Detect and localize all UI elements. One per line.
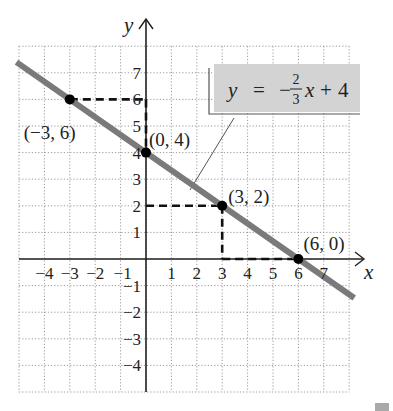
eq-frac-den: 3 bbox=[293, 92, 300, 107]
x-tick-label: 2 bbox=[193, 264, 202, 283]
corner-marker bbox=[375, 403, 389, 411]
x-tick-label: −4 bbox=[35, 264, 54, 283]
x-tick-label: 4 bbox=[243, 264, 252, 283]
chart-svg: y = − 2 3 x + 4 (−3, 6)(0, 4)(3, 2)(6, 0… bbox=[0, 0, 393, 411]
y-tick-label: −3 bbox=[123, 330, 141, 349]
data-point bbox=[217, 201, 227, 211]
y-axis-label: y bbox=[122, 13, 134, 37]
x-tick-label: 1 bbox=[167, 264, 176, 283]
eq-const: 4 bbox=[338, 78, 349, 102]
y-tick-label: −4 bbox=[123, 356, 142, 375]
x-tick-label: 5 bbox=[269, 264, 278, 283]
eq-minus: − bbox=[279, 78, 291, 102]
eq-y: y bbox=[226, 78, 238, 102]
y-tick-label: 6 bbox=[133, 90, 142, 109]
eq-equals: = bbox=[253, 78, 265, 102]
y-tick-label: 2 bbox=[133, 197, 142, 216]
y-tick-label: 3 bbox=[133, 170, 142, 189]
y-tick-label: 5 bbox=[133, 117, 142, 136]
eq-x: x bbox=[304, 78, 315, 102]
x-tick-label: −2 bbox=[86, 264, 104, 283]
y-tick-label: 4 bbox=[133, 144, 142, 163]
x-tick-label: −3 bbox=[61, 264, 79, 283]
chart-figure: y = − 2 3 x + 4 (−3, 6)(0, 4)(3, 2)(6, 0… bbox=[0, 0, 393, 411]
data-point bbox=[65, 94, 75, 104]
x-tick-label: 6 bbox=[294, 264, 303, 283]
y-tick-label: 1 bbox=[133, 223, 142, 242]
y-tick-label: 7 bbox=[133, 64, 142, 83]
eq-frac-num: 2 bbox=[293, 72, 300, 87]
point-label: (0, 4) bbox=[149, 129, 190, 151]
point-label: (6, 0) bbox=[303, 233, 344, 255]
x-tick-label: 3 bbox=[218, 264, 227, 283]
y-tick-label: −1 bbox=[123, 277, 141, 296]
y-tick-label: −2 bbox=[123, 303, 141, 322]
data-point bbox=[293, 254, 303, 264]
point-label: (3, 2) bbox=[228, 186, 269, 208]
eq-plus: + bbox=[320, 78, 332, 102]
x-tick-label: 7 bbox=[320, 264, 329, 283]
point-label: (−3, 6) bbox=[24, 122, 76, 144]
x-axis-label: x bbox=[363, 260, 374, 284]
equation-label: y = − 2 3 x + 4 bbox=[190, 64, 360, 190]
